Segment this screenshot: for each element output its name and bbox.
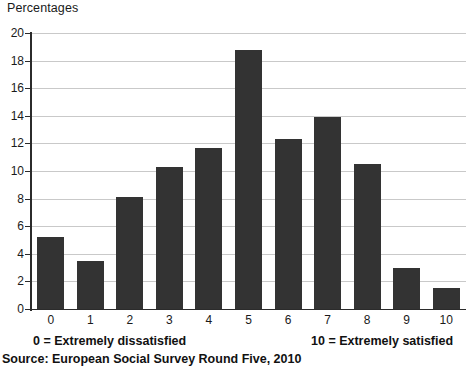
y-tick-label-4: 4 bbox=[2, 248, 24, 260]
bar-8 bbox=[354, 164, 381, 309]
y-tick-mark-10 bbox=[25, 171, 31, 172]
bar-5 bbox=[235, 50, 262, 309]
bar-chart-figure: Percentages 02468101214161820 0123456789… bbox=[0, 0, 474, 369]
source-note: Source: European Social Survey Round Fiv… bbox=[2, 352, 301, 366]
y-tick-label-18: 18 bbox=[2, 55, 24, 67]
y-axis-tick-labels: 02468101214161820 bbox=[0, 0, 24, 369]
caption-extremely-satisfied: 10 = Extremely satisfied bbox=[311, 334, 453, 348]
x-tick-label-2: 2 bbox=[110, 313, 150, 327]
x-tick-label-9: 9 bbox=[387, 313, 427, 327]
bar-4 bbox=[195, 148, 222, 309]
x-tick-label-3: 3 bbox=[150, 313, 190, 327]
caption-extremely-dissatisfied: 0 = Extremely dissatisfied bbox=[33, 334, 186, 348]
y-tick-mark-20 bbox=[25, 33, 31, 34]
bar-1 bbox=[77, 261, 104, 309]
x-axis-tick-labels: 012345678910 bbox=[31, 313, 466, 331]
x-tick-label-0: 0 bbox=[31, 313, 71, 327]
y-tick-mark-4 bbox=[25, 254, 31, 255]
x-tick-label-7: 7 bbox=[308, 313, 348, 327]
y-tick-label-2: 2 bbox=[2, 275, 24, 287]
x-tick-label-5: 5 bbox=[229, 313, 269, 327]
y-tick-label-12: 12 bbox=[2, 137, 24, 149]
bar-10 bbox=[433, 288, 460, 309]
y-tick-mark-2 bbox=[25, 281, 31, 282]
y-tick-label-14: 14 bbox=[2, 110, 24, 122]
y-tick-mark-16 bbox=[25, 88, 31, 89]
bar-0 bbox=[37, 237, 64, 309]
y-tick-mark-0 bbox=[25, 309, 31, 310]
x-tick-label-10: 10 bbox=[426, 313, 466, 327]
y-tick-label-10: 10 bbox=[2, 165, 24, 177]
bar-7 bbox=[314, 117, 341, 309]
y-tick-mark-12 bbox=[25, 143, 31, 144]
bar-2 bbox=[116, 197, 143, 309]
x-tick-label-4: 4 bbox=[189, 313, 229, 327]
y-tick-label-16: 16 bbox=[2, 82, 24, 94]
bar-3 bbox=[156, 167, 183, 309]
y-tick-mark-6 bbox=[25, 226, 31, 227]
y-tick-mark-18 bbox=[25, 61, 31, 62]
bars-layer bbox=[31, 33, 466, 309]
y-tick-label-0: 0 bbox=[2, 303, 24, 315]
y-tick-label-6: 6 bbox=[2, 220, 24, 232]
y-tick-label-8: 8 bbox=[2, 193, 24, 205]
y-tick-mark-8 bbox=[25, 199, 31, 200]
y-tick-mark-14 bbox=[25, 116, 31, 117]
y-tick-label-20: 20 bbox=[2, 27, 24, 39]
x-tick-label-8: 8 bbox=[347, 313, 387, 327]
x-tick-label-1: 1 bbox=[71, 313, 111, 327]
bar-9 bbox=[393, 268, 420, 309]
gridline-0 bbox=[31, 309, 466, 310]
x-tick-label-6: 6 bbox=[268, 313, 308, 327]
bar-6 bbox=[275, 139, 302, 309]
